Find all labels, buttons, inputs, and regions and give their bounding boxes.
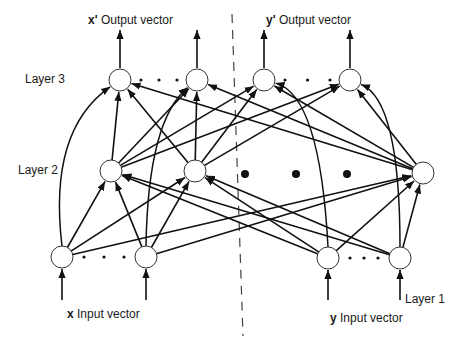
edge-L1d-L2b: [206, 176, 394, 256]
ellipsis-dot: [139, 78, 142, 81]
edge-L2c-L3b: [208, 85, 417, 171]
layer1-label: Layer 1: [405, 292, 445, 306]
node-L3b: [186, 69, 208, 91]
node-L1b: [135, 246, 157, 268]
edge-L1b-L2c: [152, 176, 411, 255]
y-output-label: y' Output vector: [266, 13, 351, 27]
y-input-text: Input vector: [340, 311, 403, 325]
x-input-label: x Input vector: [67, 307, 140, 321]
layer2-label: Layer 2: [18, 163, 58, 177]
ellipsis-dot: [157, 78, 160, 81]
node-L1a: [51, 246, 73, 268]
node-L2c: [412, 162, 434, 184]
ellipsis-dots: [82, 78, 379, 259]
y-output-text: Output vector: [279, 13, 351, 27]
edge-L1d-L2c: [402, 185, 420, 252]
ellipsis-dot: [328, 78, 331, 81]
y-input-variable: y: [330, 311, 337, 325]
ellipsis-dot: [241, 170, 249, 178]
ellipsis-dot: [122, 255, 125, 258]
x-input-text: Input vector: [77, 307, 140, 321]
ellipsis-dot: [82, 255, 85, 258]
node-L3c: [253, 69, 275, 91]
y-output-variable: y': [266, 13, 276, 27]
network-diagram: [0, 0, 461, 342]
ellipsis-dot: [175, 78, 178, 81]
node-L3a: [109, 69, 131, 91]
x-input-variable: x: [67, 307, 74, 321]
ellipsis-dot: [376, 256, 379, 259]
x-output-variable: x': [88, 13, 98, 27]
ellipsis-dot: [102, 255, 105, 258]
edge-L1d-L2a: [122, 174, 393, 256]
node-L2a: [100, 160, 122, 182]
y-input-label: y Input vector: [330, 311, 403, 325]
ellipsis-dot: [348, 256, 351, 259]
edge-L2a-L3a: [112, 92, 119, 164]
ellipsis-dot: [362, 256, 365, 259]
edge-L1a-L2a: [65, 181, 105, 251]
ellipsis-dot: [283, 78, 286, 81]
x-output-label: x' Output vector: [88, 13, 173, 27]
node-L2b: [184, 160, 206, 182]
edge-L1c-L2a: [122, 175, 322, 255]
ellipsis-dot: [343, 170, 351, 178]
node-L1c: [317, 247, 339, 269]
x-output-text: Output vector: [101, 13, 173, 27]
ellipsis-dot: [306, 78, 309, 81]
edge-L2a-L3c: [117, 86, 254, 167]
layer3-label: Layer 3: [25, 72, 65, 86]
node-L1d: [389, 247, 411, 269]
ellipsis-dot: [292, 170, 300, 178]
edge-L2b-L3a: [128, 89, 191, 166]
node-L3d: [339, 69, 361, 91]
edge-L2c-L3a: [131, 84, 416, 172]
